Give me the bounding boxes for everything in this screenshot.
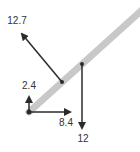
force-diagram: 12.7 12 2.4 8.4	[0, 0, 140, 152]
force-vector-12-7: 12.7	[7, 15, 64, 84]
arrow-icon	[22, 34, 62, 82]
force-label-12-7: 12.7	[7, 15, 27, 26]
beam	[29, 10, 140, 112]
application-point	[60, 80, 64, 84]
force-label-12: 12	[77, 133, 89, 144]
force-label-8-4: 8.4	[59, 117, 73, 128]
force-vector-8-4: 8.4	[29, 112, 73, 128]
force-label-2-4: 2.4	[22, 80, 36, 91]
pivot-point	[27, 110, 32, 115]
force-vector-12: 12	[77, 62, 89, 144]
application-point	[80, 62, 84, 66]
